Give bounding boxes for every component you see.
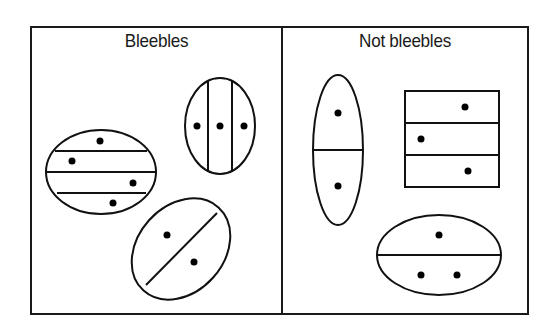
non-bleeble-wide-ellipse [377, 215, 501, 295]
non-bleeble-rectangle [405, 91, 499, 187]
non-bleeble-tall-ellipse [313, 75, 363, 225]
bleebles-diagram: Bleebles Not bleebles [0, 0, 560, 326]
panel-title-not-bleebles: Not bleebles [294, 30, 515, 52]
outer-frame [31, 27, 528, 314]
bleeble-horizontal-ellipse [46, 130, 156, 214]
bleeble-diagonal-ellipse [112, 179, 251, 320]
bleeble-vertical-ellipse [185, 78, 255, 174]
panel-title-bleebles: Bleebles [44, 30, 270, 52]
